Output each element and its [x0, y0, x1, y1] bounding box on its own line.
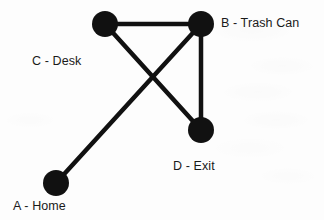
graph-canvas	[0, 0, 324, 220]
node-label-a: A - Home	[13, 200, 66, 213]
node-label-b: B - Trash Can	[221, 17, 299, 30]
graph-node-d[interactable]	[188, 117, 214, 143]
graph-node-b[interactable]	[188, 11, 214, 37]
graph-node-a[interactable]	[43, 170, 69, 196]
node-label-d: D - Exit	[173, 160, 215, 173]
graph-node-c[interactable]	[92, 11, 118, 37]
node-label-c: C - Desk	[32, 55, 81, 68]
graph-diagram: C - Desk B - Trash Can D - Exit A - Home	[0, 0, 324, 220]
